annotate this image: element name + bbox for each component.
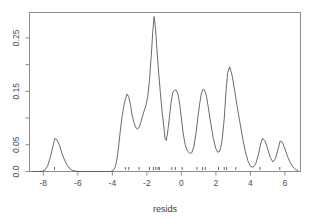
y-tick-label: 0.15 xyxy=(11,83,21,100)
x-axis-title: resids xyxy=(153,204,178,214)
x-tick-label: -2 xyxy=(143,178,151,188)
x-tick-label: -4 xyxy=(109,178,117,188)
x-tick-label: 2 xyxy=(214,178,219,188)
x-tick-label: 4 xyxy=(248,178,253,188)
x-tick-label: 0 xyxy=(179,178,184,188)
plot-canvas: 0.00.050.150.25 -8-6-4-20246 resids xyxy=(0,0,312,221)
x-tick-label: 6 xyxy=(283,178,288,188)
y-tick-label: 0.25 xyxy=(11,29,21,46)
density-plot: 0.00.050.150.25 -8-6-4-20246 resids xyxy=(0,0,312,221)
y-tick-label: 0.0 xyxy=(11,165,21,177)
y-tick-label: 0.05 xyxy=(11,136,21,153)
x-tick-label: -8 xyxy=(40,178,48,188)
x-tick-label: -6 xyxy=(74,178,82,188)
